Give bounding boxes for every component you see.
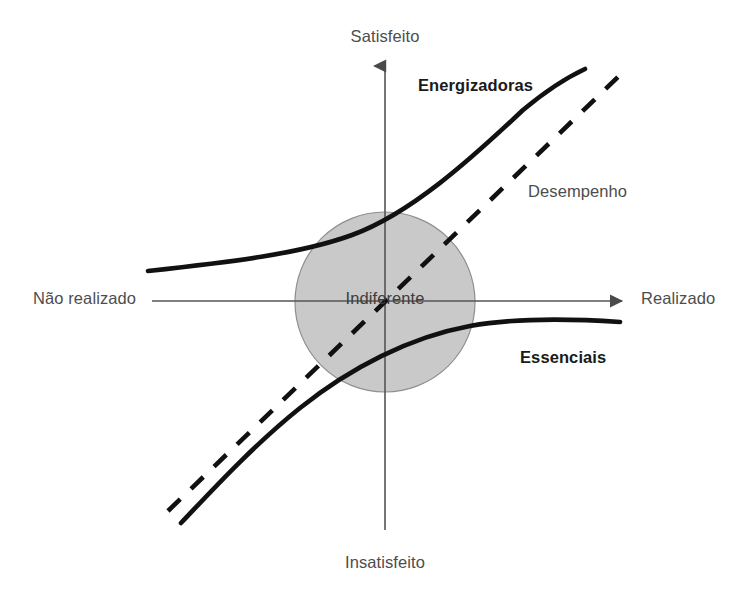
axis-label-insatisfeito: Insatisfeito [345, 553, 425, 571]
curve-label-energizadoras: Energizadoras [418, 76, 533, 94]
axis-label-satisfeito: Satisfeito [351, 27, 420, 45]
kano-model-diagram: Satisfeito Insatisfeito Não realizado Re… [0, 0, 740, 601]
axis-label-nao-realizado: Não realizado [33, 289, 136, 307]
curve-label-desempenho: Desempenho [528, 182, 627, 200]
center-label-indiferente: Indiferente [345, 289, 424, 307]
curve-label-essenciais: Essenciais [520, 348, 606, 366]
axis-label-realizado: Realizado [641, 289, 715, 307]
